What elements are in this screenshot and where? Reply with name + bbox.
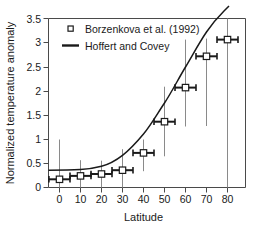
data-point	[56, 176, 62, 182]
y-tick-label: 3	[35, 36, 41, 48]
data-point	[182, 84, 188, 90]
y-axis-label: Normalized temperature anomaly	[4, 21, 16, 184]
chart-svg: 0 0.5 1 1.5 2 2.5 3 3.5 0 10 20 30 40 50…	[0, 0, 261, 229]
x-tick-labels: 0 10 20 30 40 50 60 70 80	[57, 193, 234, 205]
x-tick-label: 30	[117, 193, 129, 205]
data-point	[161, 119, 167, 125]
x-tick-label: 80	[222, 193, 234, 205]
x-axis-label: Latitude	[124, 211, 163, 223]
x-tick-label: 10	[75, 193, 87, 205]
x-tick-label: 60	[180, 193, 192, 205]
legend-label-hoffert-covey: Hoffert and Covey	[85, 40, 170, 52]
x-tick-label: 20	[96, 193, 108, 205]
data-point	[203, 53, 209, 59]
y-tick-label: 2	[35, 85, 41, 97]
legend-item-borzenkova: Borzenkova et al. (1992)	[68, 23, 199, 35]
data-point	[119, 167, 125, 173]
chart-figure: 0 0.5 1 1.5 2 2.5 3 3.5 0 10 20 30 40 50…	[0, 0, 261, 229]
y-tick-label: 2.5	[26, 61, 41, 73]
data-point	[77, 173, 83, 179]
y-tick-label: 1.5	[26, 109, 41, 121]
x-tick-label: 50	[159, 193, 171, 205]
y-tick-label: 1	[35, 133, 41, 145]
x-tick-label: 70	[201, 193, 213, 205]
data-point	[224, 36, 230, 42]
y-tick-label: 0	[35, 181, 41, 193]
y-tick-label: 0.5	[26, 157, 41, 169]
data-point	[98, 171, 104, 177]
legend-marker-open-square	[68, 26, 73, 31]
x-tick-label: 0	[57, 193, 63, 205]
y-tick-label: 3.5	[26, 13, 41, 25]
x-tick-label: 40	[138, 193, 150, 205]
data-point	[140, 150, 146, 156]
legend-label-borzenkova: Borzenkova et al. (1992)	[85, 23, 199, 35]
